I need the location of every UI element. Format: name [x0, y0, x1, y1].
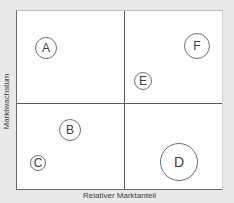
y-axis-label: Marktwachstum	[2, 62, 11, 142]
bubble-c: C	[30, 155, 46, 171]
bubble-a: A	[35, 37, 57, 59]
bubble-f: F	[184, 33, 210, 59]
bubble-b: B	[59, 119, 81, 141]
horizontal-divider	[17, 103, 222, 104]
bubble-e: E	[134, 72, 152, 90]
vertical-divider	[124, 11, 125, 189]
bubble-d: D	[160, 143, 198, 181]
x-axis-label: Relativer Marktanteil	[16, 191, 223, 200]
